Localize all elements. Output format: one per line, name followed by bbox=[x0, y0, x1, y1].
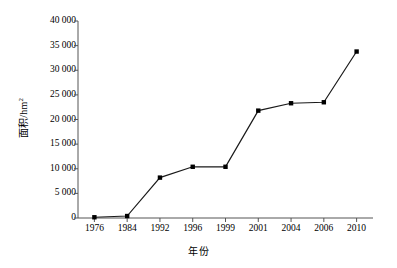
x-axis-ticks bbox=[94, 218, 356, 222]
data-point-marker bbox=[223, 165, 227, 169]
data-point-marker bbox=[92, 215, 96, 219]
data-series-markers bbox=[92, 49, 359, 219]
data-series-line bbox=[94, 52, 356, 218]
data-point-marker bbox=[256, 108, 260, 112]
data-point-marker bbox=[125, 214, 129, 218]
x-axis-tick-label: 2010 bbox=[335, 223, 379, 233]
data-point-marker bbox=[289, 101, 293, 105]
y-axis-title: 面积/hm2 bbox=[14, 78, 28, 158]
y-axis-title-text: 面积/hm bbox=[18, 102, 29, 139]
data-point-marker bbox=[158, 175, 162, 179]
data-point-marker bbox=[322, 100, 326, 104]
data-point-marker bbox=[354, 49, 358, 53]
chart-container: 05 00010 00015 00020 00025 00030 00035 0… bbox=[0, 0, 397, 268]
data-point-marker bbox=[191, 165, 195, 169]
y-axis-title-superscript: 2 bbox=[17, 98, 25, 102]
axes bbox=[78, 21, 373, 218]
x-axis-title: 年份 bbox=[0, 243, 397, 258]
y-axis-ticks bbox=[74, 21, 78, 218]
